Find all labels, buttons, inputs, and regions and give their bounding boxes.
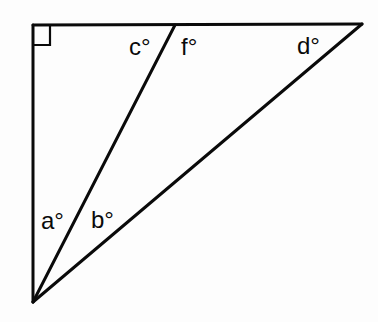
angle-label-b: b°: [91, 208, 114, 232]
angle-label-a: a°: [41, 209, 64, 233]
angle-label-d: d°: [297, 34, 320, 58]
angle-label-c: c°: [129, 35, 151, 59]
inner-segment: [33, 25, 175, 302]
right-angle-marker: [33, 25, 50, 45]
top-side: [33, 24, 362, 25]
angle-label-f: f°: [181, 35, 197, 59]
hypotenuse: [33, 24, 362, 302]
